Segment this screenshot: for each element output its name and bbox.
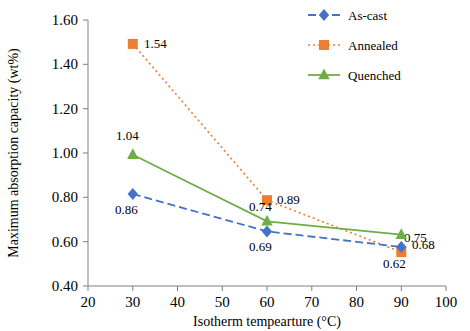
legend-marker-square-icon [319, 40, 329, 50]
y-tick-label: 1.00 [52, 145, 78, 161]
y-tick-label: 0.80 [52, 189, 78, 205]
x-tick-label: 40 [170, 294, 185, 310]
data-point-marker [128, 39, 138, 49]
y-tick-label: 1.60 [52, 12, 78, 28]
x-tick-label: 90 [394, 294, 409, 310]
legend-item-quenched[interactable]: Quenched [308, 68, 401, 83]
x-tick-label: 70 [304, 294, 319, 310]
y-tick-label: 1.20 [52, 101, 78, 117]
chart-legend: As-cast Annealed Quenched [308, 8, 401, 83]
data-label-as-cast-2: 0.69 [249, 239, 272, 254]
series-quenched: 1.04 0.74 0.68 [116, 128, 435, 252]
x-tick-label: 50 [215, 294, 230, 310]
x-tick-label: 100 [435, 294, 458, 310]
chart-container: 0.40 0.60 0.80 1.00 1.20 1.40 1.60 20 30… [0, 0, 470, 331]
data-point-marker [128, 188, 138, 200]
data-point-marker [262, 225, 272, 237]
x-tick-label: 80 [349, 294, 364, 310]
legend-item-as-cast[interactable]: As-cast [308, 8, 387, 23]
legend-item-annealed[interactable]: Annealed [308, 38, 398, 53]
data-point-marker [127, 148, 138, 159]
x-axis-tick-labels: 20 30 40 50 60 70 80 90 100 [81, 294, 458, 310]
data-label-quenched-3: 0.68 [412, 237, 435, 252]
data-label-as-cast-1: 0.86 [115, 202, 138, 217]
legend-marker-diamond-icon [319, 9, 329, 21]
y-axis-ticks [83, 20, 88, 286]
y-tick-label: 1.40 [52, 56, 78, 72]
y-tick-label: 0.40 [52, 278, 78, 294]
data-label-quenched-1: 1.04 [116, 128, 139, 143]
y-axis-tick-labels: 0.40 0.60 0.80 1.00 1.20 1.40 1.60 [52, 12, 78, 294]
x-axis-ticks [88, 286, 446, 291]
y-axis-title: Maximum absorption capacity (wt%) [6, 48, 22, 258]
y-tick-label: 0.60 [52, 234, 78, 250]
x-tick-label: 60 [260, 294, 275, 310]
legend-label-quenched: Quenched [348, 68, 401, 83]
data-label-annealed-1: 1.54 [144, 36, 167, 51]
x-tick-label: 20 [81, 294, 96, 310]
legend-marker-triangle-icon [318, 69, 329, 80]
data-label-as-cast-3: 0.62 [383, 256, 406, 271]
line-chart: 0.40 0.60 0.80 1.00 1.20 1.40 1.60 20 30… [0, 0, 470, 331]
x-tick-label: 30 [125, 294, 140, 310]
legend-label-as-cast: As-cast [348, 8, 387, 23]
x-axis-title: Isotherm tempearture (°C) [193, 314, 341, 330]
data-label-quenched-2: 0.74 [249, 199, 272, 214]
legend-label-annealed: Annealed [348, 38, 398, 53]
data-label-annealed-2: 0.89 [277, 192, 300, 207]
